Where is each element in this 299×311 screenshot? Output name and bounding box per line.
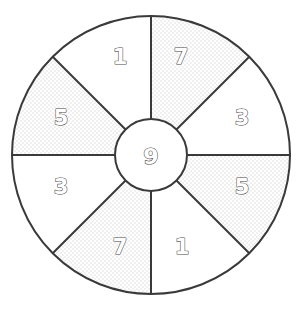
sector-value-label-right-upper: 3 [235, 106, 250, 130]
sector-value-label-top-left: 1 [113, 45, 128, 69]
sector-value-label-left-lower: 3 [54, 175, 69, 199]
hub-value-label: 9 [143, 144, 158, 169]
sector-value-label-top-right: 7 [174, 45, 189, 69]
sector-value-label-bottom-left: 7 [113, 235, 128, 259]
sector-value-label-right-lower: 5 [235, 175, 250, 199]
segmented-wheel-diagram: 73517351 9 [0, 0, 299, 311]
sector-value-label-bottom-right: 1 [175, 235, 190, 259]
sector-value-label-left-upper: 5 [54, 106, 69, 130]
